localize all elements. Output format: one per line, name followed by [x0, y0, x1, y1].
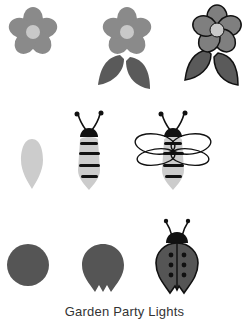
ladybug-circle-step — [7, 244, 49, 286]
bee-striped-step — [75, 111, 104, 191]
ladybug-shell-step — [82, 244, 124, 292]
caption-title: Garden Party Lights — [0, 304, 249, 319]
bee-with-wings-step — [134, 111, 212, 191]
flower-petals-step — [6, 7, 60, 58]
flower-outlined-step — [185, 5, 244, 85]
ladybug-finished-step — [156, 219, 198, 293]
bee-body-shape-step — [21, 139, 43, 189]
flower-with-leaves-step — [98, 7, 154, 89]
